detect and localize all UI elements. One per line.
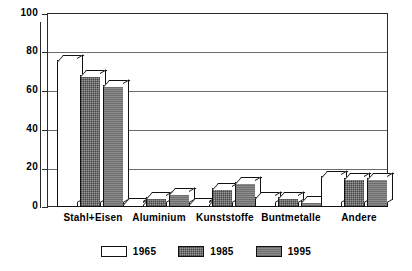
gridline-80: [48, 52, 387, 53]
legend-label-1965: 1965: [133, 246, 156, 257]
y-tick-label: 20: [12, 162, 38, 172]
gridline-60: [48, 91, 387, 92]
gridline-20: [48, 169, 387, 170]
y-axis: 100 80 60 40 20 0: [8, 0, 38, 271]
y-tick-label: 60: [12, 85, 38, 95]
chart-legend: 1965 1985 1995: [0, 240, 412, 262]
legend-swatch-1995-icon: [256, 246, 282, 257]
y-tickmark-60: [42, 91, 48, 92]
legend-label-1995: 1995: [288, 246, 311, 257]
y-tick-label: 80: [12, 46, 38, 56]
y-tick-label: 100: [12, 8, 38, 18]
y-tickmark-20: [42, 169, 48, 170]
y-tickmark-80: [42, 52, 48, 53]
legend-item-1965: 1965: [101, 246, 156, 257]
y-tickmark-40: [42, 130, 48, 131]
legend-item-1985: 1985: [178, 246, 233, 257]
y-tickmark-0: [42, 207, 48, 208]
y-tick-label: 40: [12, 124, 38, 134]
legend-swatch-1965-icon: [101, 246, 127, 257]
y-tick-label: 0: [12, 201, 38, 211]
axis-depth-wall: [40, 22, 41, 208]
gridline-40: [48, 130, 387, 131]
plot-area: [47, 13, 388, 207]
bar-chart: 100 80 60 40 20 0: [0, 0, 412, 271]
y-tickmark-100: [42, 14, 48, 15]
x-axis: Stahl+Eisen Aluminium Kunststoffe Buntme…: [47, 212, 388, 228]
x-tick-label-andere: Andere: [319, 212, 399, 223]
legend-label-1985: 1985: [210, 246, 233, 257]
legend-item-1995: 1995: [256, 246, 311, 257]
legend-swatch-1985-icon: [178, 246, 204, 257]
